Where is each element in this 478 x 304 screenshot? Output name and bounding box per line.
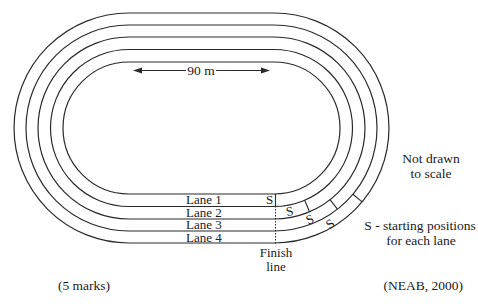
lane-boundary-1: [63, 62, 340, 194]
lane-4-start-line: [353, 194, 362, 202]
marks-label: (5 marks): [58, 278, 110, 293]
scale-note-line2: to scale: [411, 166, 452, 181]
straight-length-label: 90 m: [187, 63, 215, 78]
source-label: (NEAB, 2000): [384, 278, 464, 293]
lane-2-start-line: [305, 200, 310, 212]
lane-4-start-marker: S: [323, 215, 338, 231]
finish-label-line2: line: [266, 259, 286, 274]
lane-4-label: Lane 4: [186, 230, 222, 245]
lane-3-start-marker: S: [303, 211, 316, 228]
lane-1-start-marker: S: [266, 192, 273, 207]
lane-3-start-line: [330, 200, 337, 209]
arrow-left-head-icon: [133, 68, 142, 74]
lane-2-start-marker: S: [285, 203, 295, 219]
arrow-right-head-icon: [261, 68, 270, 74]
start-legend-line2: for each lane: [386, 233, 456, 248]
track-diagram: 90 m Lane 1 Lane 2 Lane 3 Lane 4 S S S S…: [0, 0, 478, 304]
scale-note: Not drawn: [402, 151, 460, 166]
start-legend: S - starting positions: [364, 218, 475, 233]
straight-length-arrow: 90 m: [133, 63, 270, 78]
finish-label: Finish: [260, 245, 293, 260]
